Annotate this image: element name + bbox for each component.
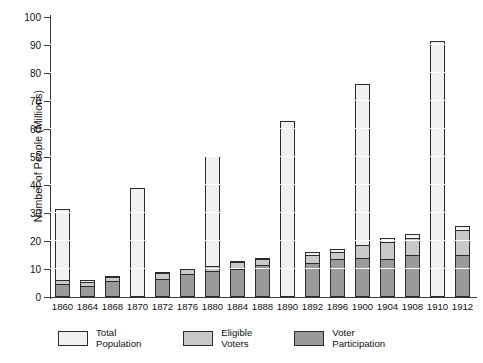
grid-line [50, 184, 475, 185]
bar-segment [180, 274, 196, 297]
grid-line [50, 72, 475, 73]
y-tick-label: 30 [30, 208, 41, 219]
x-axis-line [50, 297, 477, 298]
bar-segment [155, 279, 171, 297]
bar-segment [280, 121, 296, 297]
y-tick-mark [44, 241, 50, 242]
y-tick-label: 80 [30, 68, 41, 79]
bar-group[interactable] [55, 209, 71, 297]
bar-segment [55, 284, 71, 297]
bar-segment [105, 281, 121, 297]
bar-segment [430, 41, 446, 297]
y-tick-label: 90 [30, 40, 41, 51]
x-tick-label: 1864 [77, 301, 98, 312]
bar-group[interactable] [430, 41, 446, 297]
x-tick-label: 1910 [427, 301, 448, 312]
grid-line [50, 128, 475, 129]
y-tick-label: 70 [30, 96, 41, 107]
y-tick-mark [44, 185, 50, 186]
x-tick-label: 1880 [202, 301, 223, 312]
bar-group[interactable] [255, 258, 271, 297]
x-tick-label: 1890 [277, 301, 298, 312]
bar-segment [305, 263, 321, 297]
x-tick-label: 1896 [327, 301, 348, 312]
y-tick-mark [44, 17, 50, 18]
y-tick-label: 0 [35, 292, 41, 303]
bar-segment [255, 265, 271, 297]
bar-segment [355, 258, 371, 297]
y-tick-mark [44, 101, 50, 102]
y-tick-mark [44, 269, 50, 270]
x-tick-label: 1884 [227, 301, 248, 312]
legend-label: Total Population [96, 327, 141, 349]
bar-group[interactable] [105, 276, 121, 297]
bar-group[interactable] [305, 252, 321, 297]
bar-segment [455, 255, 471, 297]
x-tick-label: 1892 [302, 301, 323, 312]
y-tick-label: 20 [30, 236, 41, 247]
grid-line [50, 100, 475, 101]
y-tick-mark [44, 129, 50, 130]
bar-group[interactable] [230, 261, 246, 297]
chart-legend: Total PopulationEligible VotersVoter Par… [58, 327, 385, 349]
bar-segment [330, 259, 346, 297]
legend-swatch [183, 331, 213, 346]
bar-segment [130, 188, 146, 297]
y-tick-label: 10 [30, 264, 41, 275]
legend-label: Voter Participation [332, 327, 385, 349]
x-tick-label: 1860 [52, 301, 73, 312]
x-tick-label: 1908 [402, 301, 423, 312]
x-tick-label: 1868 [102, 301, 123, 312]
grid-line [50, 44, 475, 45]
x-tick-label: 1888 [252, 301, 273, 312]
bar-segment [405, 255, 421, 297]
grid-line [50, 212, 475, 213]
legend-item[interactable]: Eligible Voters [183, 327, 252, 349]
bar-segment [80, 286, 96, 297]
bar-group[interactable] [205, 156, 221, 297]
x-tick-label: 1900 [352, 301, 373, 312]
chart-figure: Number of People (Millions) 010203040506… [0, 0, 483, 363]
bar-segment [380, 259, 396, 297]
y-tick-mark [44, 45, 50, 46]
bar-group[interactable] [155, 272, 171, 297]
y-tick-mark [44, 213, 50, 214]
bar-group[interactable] [180, 268, 196, 297]
x-tick-label: 1912 [452, 301, 473, 312]
x-tick-label: 1904 [377, 301, 398, 312]
y-tick-label: 100 [24, 12, 41, 23]
x-tick-label: 1876 [177, 301, 198, 312]
bar-group[interactable] [455, 226, 471, 297]
legend-item[interactable]: Total Population [58, 327, 141, 349]
bar-group[interactable] [330, 249, 346, 297]
bar-group[interactable] [280, 121, 296, 297]
bar-group[interactable] [355, 84, 371, 297]
grid-line [50, 156, 475, 157]
y-tick-mark [44, 157, 50, 158]
y-tick-mark [44, 73, 50, 74]
bar-segment [205, 271, 221, 297]
x-tick-label: 1872 [152, 301, 173, 312]
legend-label: Eligible Voters [221, 327, 252, 349]
legend-swatch [58, 331, 88, 346]
y-tick-label: 50 [30, 152, 41, 163]
legend-item[interactable]: Voter Participation [294, 327, 385, 349]
y-tick-label: 40 [30, 180, 41, 191]
bar-group[interactable] [380, 238, 396, 297]
bar-group[interactable] [80, 280, 96, 297]
bar-segment [230, 269, 246, 297]
legend-swatch [294, 331, 324, 346]
plot-area: 0102030405060708090100 [50, 17, 475, 297]
bar-group[interactable] [405, 234, 421, 297]
y-tick-label: 60 [30, 124, 41, 135]
x-tick-label: 1870 [127, 301, 148, 312]
bar-group[interactable] [130, 188, 146, 297]
y-tick-mark [44, 297, 50, 298]
